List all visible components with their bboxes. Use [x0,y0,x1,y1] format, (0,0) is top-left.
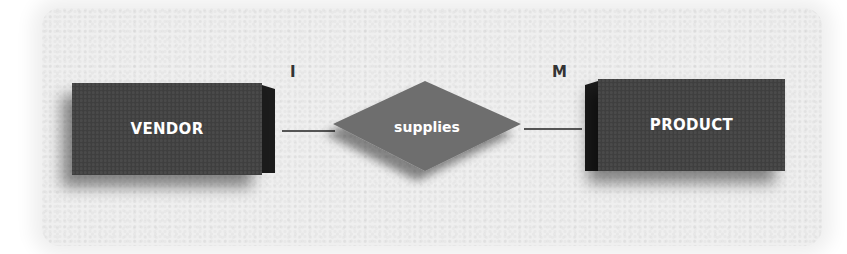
product-entity-side [585,81,598,171]
relationship-product-connector [524,128,582,130]
vendor-entity-label: VENDOR [72,120,262,138]
vendor-entity: VENDOR [72,83,262,175]
vendor-entity-side [262,85,275,173]
vendor-cardinality: I [290,63,296,81]
product-cardinality: M [552,63,567,81]
product-entity-label: PRODUCT [598,116,785,134]
supplies-relationship: supplies [333,81,521,175]
product-entity: PRODUCT [598,79,785,171]
relationship-label: supplies [333,119,521,135]
vendor-relationship-connector [282,130,335,132]
